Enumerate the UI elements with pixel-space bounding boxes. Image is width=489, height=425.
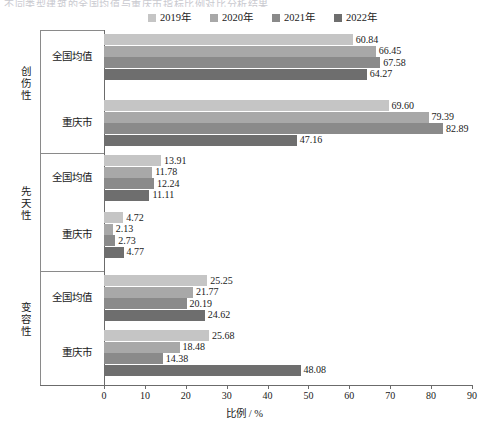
x-tick-label: 0: [102, 390, 107, 401]
bar: [104, 247, 124, 258]
x-tick-label: 20: [181, 390, 191, 401]
x-tick: [227, 385, 228, 389]
x-tick-label: 50: [303, 390, 313, 401]
row-label-全国均值: 全国均值: [0, 292, 92, 303]
bar-value-label: 64.27: [370, 68, 393, 79]
group-label-变容性: 变容性: [18, 302, 32, 338]
bar-value-label: 24.62: [208, 309, 231, 320]
legend-item-2021年: 2021年: [272, 13, 315, 24]
bar: [104, 330, 209, 341]
row-label-wrap: 重庆市: [0, 117, 98, 128]
row-label-wrap: 全国均值: [0, 172, 98, 183]
x-tick: [186, 385, 187, 389]
x-tick: [431, 385, 432, 389]
bar: [104, 123, 443, 134]
bar: [104, 167, 152, 178]
x-tick: [472, 385, 473, 389]
bar-value-label: 20.19: [190, 298, 213, 309]
bar-value-label: 4.72: [126, 212, 144, 223]
bar: [104, 342, 180, 353]
bar: [104, 46, 376, 57]
group-separator: [40, 271, 104, 272]
legend-label: 2019年: [160, 13, 191, 24]
bar-value-label: 66.45: [379, 45, 402, 56]
bar: [104, 69, 367, 80]
group-bracket-line: [40, 30, 41, 385]
row-label-wrap: 重庆市: [0, 229, 98, 240]
bar: [104, 212, 123, 223]
x-tick-label: 40: [263, 390, 273, 401]
bar-value-label: 25.68: [212, 330, 235, 341]
bar: [104, 178, 154, 189]
bar-value-label: 18.48: [183, 341, 206, 352]
legend-label: 2022年: [346, 13, 377, 24]
x-tick-label: 10: [140, 390, 150, 401]
bar-value-label: 2.13: [116, 223, 134, 234]
title-fragment: 不同类型建筑的全国均值与重庆市指标比例对比分析结果: [4, 0, 464, 7]
bar-value-label: 11.11: [152, 189, 174, 200]
bar-value-label: 14.38: [166, 353, 189, 364]
bar: [104, 190, 149, 201]
row-label-wrap: 重庆市: [0, 347, 98, 358]
bar: [104, 275, 207, 286]
chart-canvas: 不同类型建筑的全国均值与重庆市指标比例对比分析结果 2019年2020年2021…: [0, 0, 489, 425]
x-tick-label: 80: [426, 390, 436, 401]
x-tick-label: 60: [344, 390, 354, 401]
row-label-重庆市: 重庆市: [0, 117, 92, 128]
bar-value-label: 60.84: [356, 34, 379, 45]
row-label-重庆市: 重庆市: [0, 229, 92, 240]
x-tick: [349, 385, 350, 389]
row-label-重庆市: 重庆市: [0, 347, 92, 358]
x-tick: [308, 385, 309, 389]
bar-value-label: 69.60: [392, 100, 415, 111]
bar-value-label: 67.58: [383, 57, 406, 68]
x-axis-title: 比例 / %: [0, 405, 489, 420]
x-tick-label: 30: [222, 390, 232, 401]
chart-legend: 2019年2020年2021年2022年: [148, 13, 377, 24]
legend-swatch-icon: [210, 14, 218, 22]
row-label-wrap: 全国均值: [0, 292, 98, 303]
x-tick: [145, 385, 146, 389]
bar-value-label: 13.91: [164, 155, 187, 166]
legend-item-2019年: 2019年: [148, 13, 191, 24]
bar: [104, 287, 193, 298]
group-label-先天性: 先天性: [18, 186, 32, 222]
legend-item-2022年: 2022年: [334, 13, 377, 24]
x-tick-label: 90: [467, 390, 477, 401]
bar: [104, 310, 205, 321]
bar: [104, 100, 389, 111]
legend-swatch-icon: [272, 14, 280, 22]
bar: [104, 155, 161, 166]
bar-value-label: 25.25: [210, 275, 233, 286]
bar-value-label: 11.78: [155, 166, 177, 177]
row-label-全国均值: 全国均值: [0, 51, 92, 62]
legend-swatch-icon: [334, 14, 342, 22]
bar: [104, 135, 297, 146]
legend-label: 2020年: [222, 13, 253, 24]
bar: [104, 57, 380, 68]
group-separator-top: [40, 30, 104, 31]
bar: [104, 112, 429, 123]
legend-label: 2021年: [284, 13, 315, 24]
x-tick: [104, 385, 105, 389]
bar-value-label: 2.73: [118, 235, 136, 246]
x-tick: [268, 385, 269, 389]
bar-value-label: 82.89: [446, 123, 469, 134]
x-tick-label: 70: [385, 390, 395, 401]
group-separator: [40, 153, 104, 154]
row-label-全国均值: 全国均值: [0, 172, 92, 183]
bar-value-label: 21.77: [196, 286, 219, 297]
bar: [104, 34, 353, 45]
legend-item-2020年: 2020年: [210, 13, 253, 24]
bar-value-label: 79.39: [432, 111, 455, 122]
bar-value-label: 47.16: [300, 134, 323, 145]
bar-value-label: 4.77: [127, 246, 145, 257]
bar: [104, 224, 113, 235]
bar: [104, 353, 163, 364]
bar: [104, 365, 301, 376]
group-label-创伤性: 创伤性: [18, 66, 32, 102]
x-tick: [390, 385, 391, 389]
bar: [104, 298, 187, 309]
row-label-wrap: 全国均值: [0, 51, 98, 62]
bar: [104, 235, 115, 246]
